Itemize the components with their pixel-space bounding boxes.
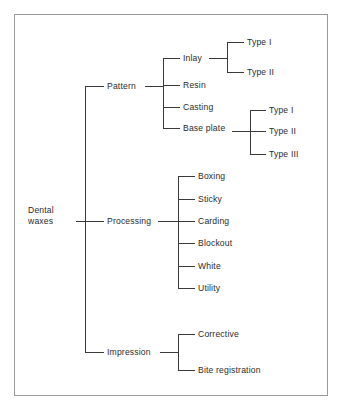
node-pattern: Pattern [107, 81, 136, 91]
node-base-plate-type-1: Type I [269, 105, 293, 115]
node-sticky: Sticky [198, 194, 222, 204]
node-utility: Utility [198, 283, 220, 293]
node-bite-registration: Bite registration [198, 365, 261, 375]
node-dental-waxes-line2: waxes [28, 216, 53, 226]
node-inlay: Inlay [183, 53, 202, 63]
dental-waxes-tree-diagram: Dentalwaxes Pattern Processing Impressio… [0, 0, 344, 413]
node-processing: Processing [107, 216, 151, 226]
node-dental-waxes: Dentalwaxes [28, 205, 54, 227]
node-base-plate: Base plate [183, 123, 225, 133]
node-dental-waxes-line1: Dental [28, 205, 54, 215]
node-inlay-type-2: Type II [247, 67, 274, 77]
node-resin: Resin [183, 80, 206, 90]
node-boxing: Boxing [198, 171, 225, 181]
node-corrective: Corrective [198, 329, 239, 339]
node-white: White [198, 261, 221, 271]
node-casting: Casting [183, 102, 213, 112]
node-base-plate-type-2: Type II [269, 126, 296, 136]
node-blockout: Blockout [198, 238, 232, 248]
node-inlay-type-1: Type I [247, 37, 271, 47]
node-carding: Carding [198, 216, 229, 226]
node-base-plate-type-3: Type III [269, 149, 299, 159]
node-impression: Impression [107, 347, 151, 357]
